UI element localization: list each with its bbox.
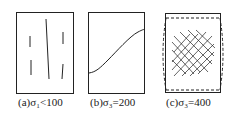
crack-pattern-figure: (a)σ₁<100 (b)σ₃=200 (c)σ₃=400 <box>0 0 239 124</box>
caption-a: (a)σ₁<100 <box>18 96 63 108</box>
panel-c <box>163 14 223 93</box>
caption-b: (b)σ₃=200 <box>90 96 135 108</box>
caption-c: (c)σ₃=400 <box>166 96 211 108</box>
panel-b <box>89 13 145 94</box>
panel-a <box>17 13 74 94</box>
